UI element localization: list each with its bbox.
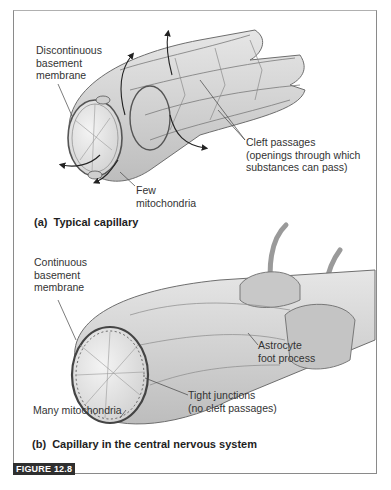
label-tight-junctions: Tight junctions (no cleft passages) (188, 389, 277, 414)
label-few-mitochondria: Few mitochondria (136, 184, 196, 209)
caption-typical-capillary: (a) Typical capillary (34, 216, 138, 228)
label-line: substances can pass) (246, 161, 348, 173)
label-line: foot process (258, 352, 315, 364)
label-continuous-basement-membrane: Continuous basement membrane (34, 256, 87, 294)
label-line: Discontinuous (36, 44, 102, 56)
figure-number-badge: FIGURE 12.8 (13, 463, 75, 475)
label-cleft-passages: Cleft passages (openings through which s… (246, 136, 360, 174)
label-line: Few (136, 184, 156, 196)
label-line: (no cleft passages) (188, 402, 277, 414)
label-line: Tight junctions (188, 389, 255, 401)
label-line: mitochondria (136, 197, 196, 209)
label-line: membrane (34, 281, 84, 293)
label-line: (openings through which (246, 149, 360, 161)
label-line: Astrocyte (258, 339, 302, 351)
label-discontinuous-basement-membrane: Discontinuous basement membrane (36, 44, 102, 82)
label-line: basement (34, 269, 80, 281)
label-many-mitochondria: Many mitochondria (33, 404, 122, 417)
label-line: Cleft passages (246, 136, 315, 148)
label-astrocyte-foot-process: Astrocyte foot process (258, 339, 315, 364)
label-line: basement (36, 57, 82, 69)
caption-cns-capillary: (b) Capillary in the central nervous sys… (32, 438, 257, 450)
label-line: membrane (36, 69, 86, 81)
label-line: Continuous (34, 256, 87, 268)
